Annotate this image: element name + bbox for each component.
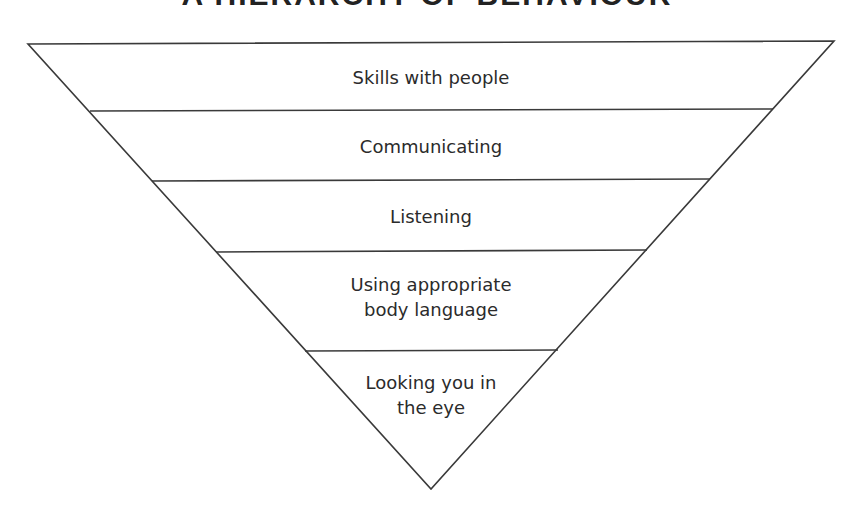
level-1-text: Skills with people bbox=[353, 67, 510, 88]
level-5-label: Looking you in the eye bbox=[366, 370, 497, 420]
divider-2 bbox=[152, 179, 710, 181]
divider-1 bbox=[90, 109, 773, 111]
level-5-text-line1: Looking you in bbox=[366, 370, 497, 395]
pyramid-outline bbox=[28, 41, 834, 489]
level-2-text: Communicating bbox=[360, 136, 502, 157]
divider-3 bbox=[216, 250, 647, 252]
level-1-label: Skills with people bbox=[353, 65, 510, 90]
level-2-label: Communicating bbox=[360, 134, 502, 159]
level-5-text-line2: the eye bbox=[366, 395, 497, 420]
level-3-label: Listening bbox=[390, 204, 472, 229]
level-3-text: Listening bbox=[390, 206, 472, 227]
level-4-text-line2: body language bbox=[351, 297, 512, 322]
level-4-text-line1: Using appropriate bbox=[351, 272, 512, 297]
level-4-label: Using appropriate body language bbox=[351, 272, 512, 322]
divider-4 bbox=[305, 350, 558, 351]
